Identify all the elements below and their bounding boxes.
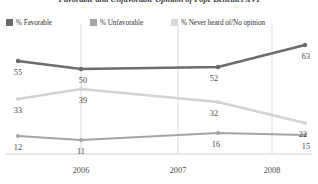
chart-legend: % Favorable % Unfavorable % Never heard … — [6, 11, 312, 21]
data-label-favorable-2: 52 — [210, 74, 218, 83]
data-label-never-heard-0: 33 — [14, 106, 22, 115]
x-tick-2008: 2008 — [264, 166, 281, 175]
data-label-never-heard-3: 22 — [299, 130, 307, 139]
data-label-unfavorable-1: 11 — [77, 147, 85, 156]
legend-item-unfavorable: % Unfavorable — [90, 11, 143, 21]
plot-area: 55 50 52 63 33 39 32 22 12 11 16 15 — [0, 24, 318, 160]
chart-svg — [0, 24, 318, 160]
chart-title: Favorable and Unfavorable Opinion of Pop… — [0, 0, 318, 4]
data-label-favorable-3: 63 — [302, 52, 310, 61]
series-unfavorable — [16, 131, 307, 142]
legend-item-favorable: % Favorable — [6, 11, 52, 21]
chart-screenshot: Favorable and Unfavorable Opinion of Pop… — [0, 0, 318, 184]
data-label-favorable-1: 50 — [79, 76, 87, 85]
data-label-favorable-0: 55 — [14, 68, 22, 77]
data-label-unfavorable-3: 15 — [302, 142, 310, 151]
data-label-never-heard-2: 32 — [210, 109, 218, 118]
series-never-heard — [16, 87, 307, 125]
data-label-never-heard-1: 39 — [79, 96, 87, 105]
data-label-unfavorable-2: 16 — [212, 140, 220, 149]
series-favorable — [16, 43, 307, 71]
x-tick-2006: 2006 — [73, 166, 90, 175]
data-label-unfavorable-0: 12 — [14, 143, 22, 152]
x-tick-2007: 2007 — [170, 166, 187, 175]
legend-item-never-heard: % Never heard of/No opinion — [171, 11, 265, 21]
